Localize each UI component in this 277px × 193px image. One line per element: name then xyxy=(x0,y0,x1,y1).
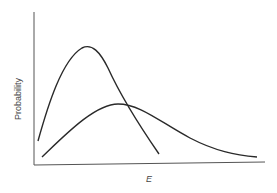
x-axis xyxy=(34,162,265,165)
curve-narrow xyxy=(38,47,159,154)
curve-broad xyxy=(42,104,257,157)
probability-energy-plot xyxy=(0,0,277,193)
x-axis-label: E xyxy=(146,174,152,184)
y-axis-label: Probability xyxy=(13,78,23,120)
